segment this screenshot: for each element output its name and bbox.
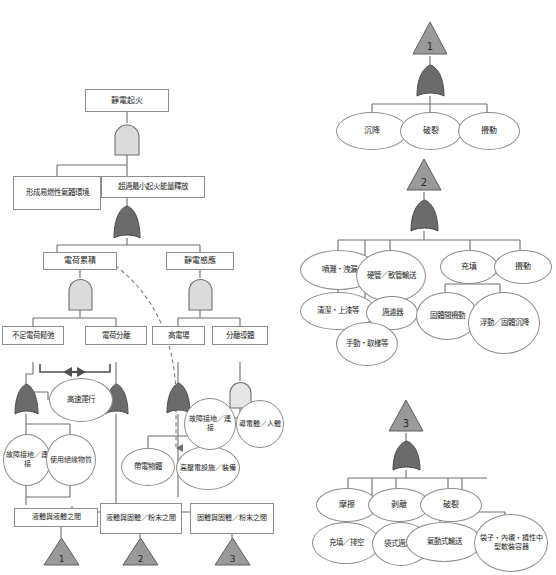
or-gate-transfer-2 [408, 199, 441, 233]
node-top-event[interactable]: 靜電起火 [85, 89, 169, 112]
fault-tree-diagram: 1 2 3 1 2 3 靜電起火 形成易燃性氣體環境 超過最小起火能量釋放 電荷… [0, 0, 556, 575]
t3-node-filling-emptying[interactable]: 充填／排空 [312, 522, 380, 564]
t1-node-agitation[interactable]: 攪動 [458, 112, 520, 150]
svg-text:2: 2 [421, 177, 427, 188]
t1-node-rupture[interactable]: 破裂 [400, 112, 462, 150]
t3-node-bag-liner-fibc[interactable]: 袋子・內襯・撓性中型散裝容器 [474, 514, 548, 572]
node-charged-object[interactable]: 帶電物體 [121, 448, 175, 486]
svg-text:1: 1 [59, 554, 65, 564]
node-high-electric-field[interactable]: 高電場 [152, 326, 205, 345]
t2-node-floating-solid-settling[interactable]: 浮動／固體沉降 [468, 292, 540, 354]
or-gate-min-ignition [110, 205, 144, 240]
svg-text:1: 1 [427, 41, 433, 52]
node-isolated-conductor[interactable]: 分離導體 [212, 326, 268, 345]
node-min-ignition-energy[interactable]: 超過最小起火能量釋放 [101, 176, 205, 198]
svg-text:2: 2 [138, 554, 144, 564]
and-gate-static-induction [185, 276, 216, 312]
and-gate-charge-accumulation [65, 276, 96, 312]
node-fault-ground-connection-a[interactable]: 故障接地／連接 [3, 434, 51, 486]
node-solid-solid-powder[interactable]: 固體與固體／粉末之間 [190, 503, 274, 534]
and-gate-top-event [110, 121, 144, 157]
t2-node-manual-sampling[interactable]: 手動・取樣等 [336, 322, 398, 366]
or-gate-transfer-1 [414, 64, 447, 98]
node-high-speed-operation[interactable]: 高速運行 [49, 378, 113, 422]
or-gate-insufficient-relaxation [12, 383, 41, 416]
transfer-triangle-2-in[interactable]: 2 [405, 157, 443, 193]
svg-text:3: 3 [403, 418, 409, 429]
node-static-induction[interactable]: 靜電感應 [166, 252, 234, 270]
transfer-triangle-3-out[interactable]: 3 [214, 537, 251, 567]
t2-node-filling[interactable]: 充填 [440, 250, 498, 284]
t3-node-rupture[interactable]: 破裂 [420, 488, 482, 522]
node-liquid-solid-powder[interactable]: 液體與固體／粉末之間 [100, 503, 182, 534]
transfer-triangle-1-out[interactable]: 1 [43, 537, 80, 567]
or-gate-transfer-3 [390, 440, 423, 472]
t1-node-settling[interactable]: 沉降 [336, 112, 408, 150]
t2-node-agitation[interactable]: 攪動 [494, 250, 552, 284]
node-conductor-human-body[interactable]: 導電體／人體 [236, 400, 284, 448]
node-flammable-environment[interactable]: 形成易燃性氣體環境 [13, 176, 101, 210]
node-liquid-liquid[interactable]: 液體與液體之間 [14, 508, 98, 527]
transfer-triangle-2-out[interactable]: 2 [122, 537, 159, 567]
t2-node-pipe-hose-transfer[interactable]: 硬管／軟管輸送 [356, 250, 426, 302]
svg-text:3: 3 [230, 554, 236, 564]
transfer-triangle-1-in[interactable]: 1 [411, 20, 449, 57]
node-fault-ground-connection-b[interactable]: 故障接地／連接 [184, 398, 236, 450]
node-charge-accumulation[interactable]: 電荷累積 [43, 252, 117, 270]
node-insulating-material[interactable]: 使用絕緣物質 [46, 434, 96, 486]
node-insufficient-relaxation[interactable]: 不足電荷鬆弛 [2, 326, 64, 345]
node-high-voltage-equipment[interactable]: 高壓電設施／裝備 [176, 446, 240, 490]
transfer-triangle-3-in[interactable]: 3 [387, 398, 425, 434]
node-charge-separation[interactable]: 電荷分離 [85, 326, 147, 345]
t3-node-pneumatic-transfer[interactable]: 氣動式輸送 [406, 522, 482, 562]
